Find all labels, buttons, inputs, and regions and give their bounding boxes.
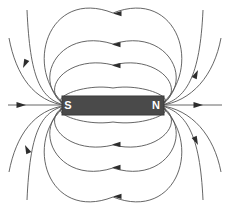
- outer-curve-bottom-right-b: [160, 106, 221, 173]
- south-pole-label: S: [64, 99, 71, 111]
- bar-magnet-body: [62, 96, 164, 115]
- outer-curve-top-right-b: [160, 38, 221, 106]
- outer-curve-top-left: [27, 10, 66, 106]
- field-diagram-canvas: S N: [0, 0, 230, 210]
- north-pole-label: N: [152, 99, 160, 111]
- top-loop-4: [44, 8, 182, 105]
- axis-arrowhead-left: [17, 102, 27, 108]
- axis-arrowhead-right: [194, 102, 204, 108]
- top-loop-2-arrowhead: [112, 63, 121, 68]
- outer-curve-bottom-left: [27, 106, 66, 201]
- outer-curve-top-left-arrowhead: [20, 59, 29, 70]
- bottom-loop-4: [44, 106, 182, 202]
- outer-curve-top-left-b: [9, 38, 66, 106]
- bottom-loop-2-arrowhead: [112, 142, 121, 147]
- outer-curve-bottom-left-b: [9, 106, 66, 173]
- outer-curve-bottom-left-arrowhead: [22, 144, 31, 155]
- magnetic-field-diagram: S N: [0, 0, 230, 210]
